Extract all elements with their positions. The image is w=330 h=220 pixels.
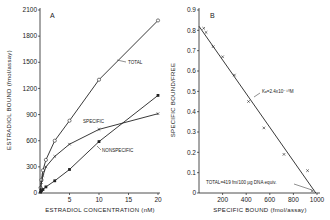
marker	[53, 179, 56, 182]
marker	[221, 55, 224, 58]
marker	[202, 27, 205, 30]
kd-leader	[254, 93, 260, 97]
y-tick-label: 0.7	[187, 47, 196, 54]
marker	[98, 140, 101, 143]
specific-annotation: SPECIFIC	[83, 119, 105, 124]
a-x-label: ESTRADIOL CONCENTRATION (nM)	[45, 207, 155, 213]
marker	[97, 78, 100, 81]
a-x-ticks: 5101520	[68, 193, 162, 203]
marker	[44, 158, 47, 161]
x-tick-label: 15	[125, 196, 133, 203]
marker	[311, 190, 314, 193]
series-line	[40, 114, 158, 193]
b-y-ticks: 00.10.20.30.40.50.60.70.80.9	[187, 6, 199, 196]
total-annotation: TOTAL	[128, 60, 143, 65]
panel-a-label: A	[50, 12, 55, 19]
panel-b-label: B	[210, 12, 215, 19]
marker	[45, 186, 48, 189]
x-tick-label: 400	[241, 196, 252, 203]
nonspecific-leader	[97, 146, 101, 150]
y-tick-label: 300	[26, 163, 37, 170]
marker	[157, 94, 160, 97]
panel-a: 03006009001200150018002100 5101520 A EST…	[6, 6, 162, 213]
marker	[156, 19, 159, 22]
marker	[53, 139, 56, 142]
marker	[283, 153, 286, 156]
y-tick-label: 0.1	[187, 169, 196, 176]
b-y-label: SPECIFIC BOUND/FREE	[170, 63, 176, 137]
total-leader	[117, 60, 126, 62]
x-tick-label: 200	[217, 196, 228, 203]
x-tick-label: 600	[264, 196, 275, 203]
y-tick-label: 0.6	[187, 67, 196, 74]
a-y-ticks: 03006009001200150018002100	[23, 6, 40, 196]
y-tick-label: 0.8	[187, 27, 196, 34]
y-tick-label: 600	[26, 137, 37, 144]
total-b-annotation: TOTAL=419 fm/100 µg DNA equiv.	[206, 180, 276, 185]
b-x-label: SPECIFIC BOUND (fmol/assay)	[213, 207, 306, 213]
nonspecific-annotation: NONSPECIFIC	[102, 148, 134, 153]
y-tick-label: 900	[26, 111, 37, 118]
figure: 03006009001200150018002100 5101520 A EST…	[0, 0, 330, 220]
marker	[263, 127, 266, 130]
series-line	[40, 20, 158, 193]
panel-b: 00.10.20.30.40.50.60.70.80.9 20040060080…	[170, 6, 325, 213]
y-tick-label: 1800	[23, 32, 38, 39]
x-tick-label: 20	[154, 196, 162, 203]
series-line	[40, 95, 158, 193]
y-tick-label: 0.3	[187, 128, 196, 135]
x-tick-label: 5	[68, 196, 72, 203]
y-tick-label: 1500	[23, 58, 38, 65]
marker	[68, 119, 71, 122]
marker	[53, 155, 56, 158]
kd-annotation: Kₐ=2.4x10⁻¹⁰M	[262, 89, 294, 94]
y-tick-label: 2100	[23, 6, 38, 13]
y-tick-label: 0.5	[187, 88, 196, 95]
y-tick-label: 0.4	[187, 108, 196, 115]
total-b-leader	[294, 184, 312, 190]
y-tick-label: 0.9	[187, 6, 196, 13]
x-tick-label: 1000	[310, 196, 325, 203]
b-x-ticks: 2004006008001000	[217, 193, 324, 203]
marker	[205, 31, 208, 34]
marker	[42, 188, 45, 191]
a-y-label: ESTRADIOL BOUND (fmol/assay)	[6, 50, 12, 150]
x-tick-label: 10	[95, 196, 103, 203]
y-tick-label: 0	[192, 189, 196, 196]
series-line	[199, 26, 316, 193]
marker	[68, 168, 71, 171]
marker	[306, 169, 309, 172]
x-tick-label: 800	[288, 196, 299, 203]
b-series	[199, 26, 316, 193]
y-tick-label: 0.2	[187, 149, 196, 156]
marker	[247, 100, 250, 103]
a-series	[39, 19, 160, 194]
y-tick-label: 0	[33, 189, 37, 196]
y-tick-label: 1200	[23, 85, 38, 92]
